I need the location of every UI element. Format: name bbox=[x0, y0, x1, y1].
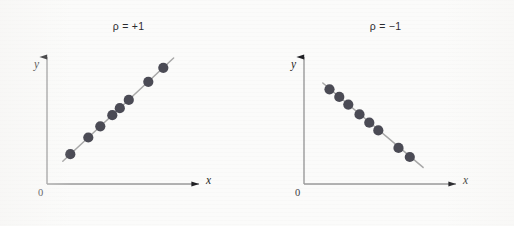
y-axis-label-negative: y bbox=[291, 58, 296, 70]
data-points-negative bbox=[324, 84, 415, 162]
data-point bbox=[324, 84, 334, 94]
data-point bbox=[343, 100, 353, 110]
y-axis-label-positive: y bbox=[34, 58, 39, 70]
origin-label-positive: 0 bbox=[38, 187, 43, 198]
data-point bbox=[115, 103, 125, 113]
panel-title-negative: ρ = −1 bbox=[257, 20, 514, 32]
data-point bbox=[405, 152, 415, 162]
data-point bbox=[354, 109, 364, 119]
data-point bbox=[124, 95, 134, 105]
data-point bbox=[334, 92, 344, 102]
panel-negative-correlation: ρ = −1 bbox=[257, 0, 514, 226]
x-axis-label-negative: x bbox=[463, 174, 468, 186]
panel-positive-correlation: ρ = +1 bbox=[0, 0, 257, 226]
data-point bbox=[158, 63, 168, 73]
data-point bbox=[83, 132, 93, 142]
data-point bbox=[393, 143, 403, 153]
panel-title-positive: ρ = +1 bbox=[0, 20, 257, 32]
data-point bbox=[373, 125, 383, 135]
data-point bbox=[95, 121, 105, 131]
axes-positive bbox=[47, 57, 199, 184]
data-point bbox=[143, 77, 153, 87]
correlation-figure: ρ = +1 bbox=[0, 0, 514, 226]
data-point bbox=[65, 149, 75, 159]
axes-negative bbox=[304, 57, 456, 184]
data-point bbox=[364, 118, 374, 128]
origin-label-negative: 0 bbox=[295, 187, 300, 198]
data-point bbox=[107, 110, 117, 120]
x-axis-label-positive: x bbox=[206, 174, 211, 186]
